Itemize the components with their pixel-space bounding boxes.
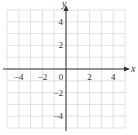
x-tick-label: −2 [38, 72, 48, 82]
y-axis-label: y [61, 0, 67, 9]
x-axis-arrow-icon [124, 67, 130, 72]
y-tick-label: −2 [53, 88, 63, 98]
coordinate-plane: −4−2024−4−224 x y [0, 0, 138, 135]
x-tick-label: −4 [14, 72, 24, 82]
x-tick-label: 2 [87, 72, 92, 82]
y-tick-label: 4 [59, 17, 64, 27]
y-tick-label: −4 [53, 111, 63, 121]
axes [3, 5, 130, 131]
x-tick-label: 4 [111, 72, 116, 82]
x-axis-label: x [130, 63, 136, 74]
y-tick-label: 2 [59, 40, 64, 50]
x-tick-label: 0 [59, 72, 64, 82]
